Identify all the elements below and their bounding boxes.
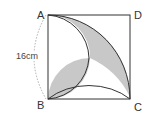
- vertex-a-label: A: [37, 10, 44, 21]
- vertex-c-label: C: [134, 102, 142, 113]
- side-length-label: 16cm: [16, 52, 38, 61]
- vertex-b-label: B: [37, 100, 44, 111]
- vertex-d-label: D: [134, 10, 142, 21]
